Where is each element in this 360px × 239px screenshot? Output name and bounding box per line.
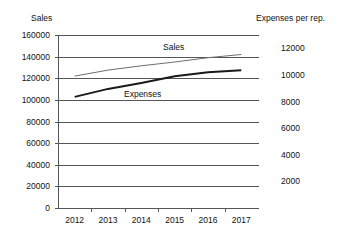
series-annotation-expenses: Expenses [124,89,161,99]
series-line-sales [75,55,242,77]
series-annotation-sales: Sales [163,42,184,52]
dual-axis-line-chart: Sales Expenses per rep. 0200004000060000… [0,0,360,239]
series-plot-area [0,0,360,239]
